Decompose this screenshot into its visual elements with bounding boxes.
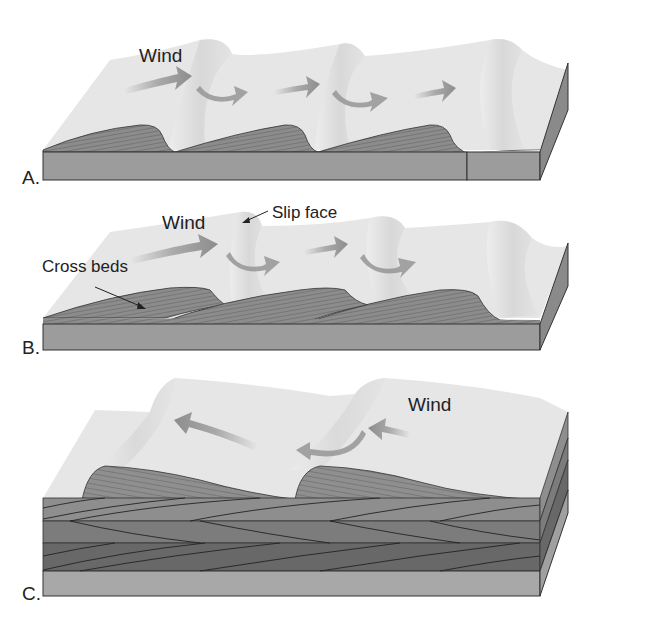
panel-letter-c: C.: [22, 583, 41, 604]
dune-diagram: Wind A. Slip face Cross beds Wind B.: [0, 0, 654, 628]
panel-a-block-front: [43, 152, 467, 180]
panel-c: Wind C.: [22, 378, 568, 604]
stratum-1: [43, 498, 540, 521]
wind-label: Wind: [139, 45, 182, 66]
panel-a: Wind A.: [22, 39, 568, 188]
panel-b-block-front: [43, 324, 540, 350]
panel-b: Slip face Cross beds Wind B.: [22, 203, 568, 358]
panel-letter-b: B.: [22, 337, 40, 358]
panel-letter-a: A.: [22, 167, 40, 188]
cross-beds-label: Cross beds: [42, 257, 128, 276]
stratum-2: [43, 521, 540, 543]
wind-label: Wind: [162, 212, 205, 233]
base-layer: [43, 571, 540, 596]
slip-face-label: Slip face: [272, 203, 337, 222]
panel-a-block-front-ext: [467, 152, 540, 180]
wind-label: Wind: [408, 394, 451, 415]
